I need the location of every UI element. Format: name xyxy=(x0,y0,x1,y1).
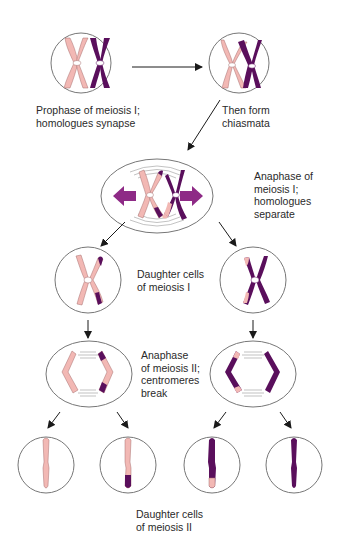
chiasmata-cell xyxy=(209,33,269,93)
arrow-to-d2-4 xyxy=(280,412,291,428)
daughter-ii-cell-3 xyxy=(184,437,240,493)
arrow-to-daughter-right xyxy=(219,222,236,246)
label-daughter-ii: Daughter cells of meiosis II xyxy=(136,508,203,533)
daughter-ii-cell-4 xyxy=(266,437,322,493)
label-prophase-i: Prophase of meiosis I; homologues synaps… xyxy=(36,104,140,129)
daughter-ii-cell-1 xyxy=(18,437,74,493)
arrow-to-d2-1 xyxy=(48,412,60,428)
daughter-i-left-cell xyxy=(55,247,121,313)
arrow-to-d2-3 xyxy=(214,412,226,428)
anaphase-ii-left-cell xyxy=(46,341,132,407)
arrow-to-daughter-left xyxy=(101,222,125,246)
label-anaphase-i: Anaphase of meiosis I; homologues separa… xyxy=(254,170,313,220)
label-daughter-i: Daughter cells of meiosis I xyxy=(137,268,204,293)
arrow-to-anaphase-i xyxy=(188,100,220,150)
anaphase-i-cell xyxy=(101,159,213,233)
daughter-ii-cell-2 xyxy=(100,437,156,493)
label-chiasmata: Then form chiasmata xyxy=(222,104,270,129)
anaphase-ii-right-cell xyxy=(210,341,296,407)
label-anaphase-ii: Anaphase of meiosis II; centromeres brea… xyxy=(141,349,200,399)
arrow-to-d2-2 xyxy=(117,412,128,428)
daughter-i-right-cell xyxy=(220,247,286,313)
prophase-cell xyxy=(51,33,111,93)
